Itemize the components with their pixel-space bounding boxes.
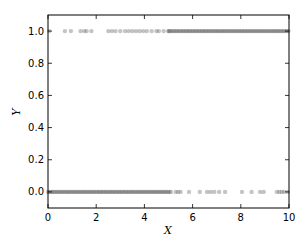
- data-point: [84, 29, 88, 33]
- data-point: [169, 190, 173, 194]
- y-tick-label: 0.0: [28, 186, 44, 197]
- data-point: [212, 190, 216, 194]
- y-tick-label: 0.8: [28, 58, 44, 69]
- data-point: [249, 190, 253, 194]
- data-point: [217, 190, 221, 194]
- data-point: [162, 29, 166, 33]
- data-point: [149, 29, 153, 33]
- y-tick-label: 0.6: [28, 90, 44, 101]
- data-point: [187, 190, 191, 194]
- x-axis-label: X: [163, 224, 173, 237]
- data-point: [198, 190, 202, 194]
- y-tick-label: 1.0: [28, 26, 44, 37]
- data-point: [157, 29, 161, 33]
- data-point: [89, 29, 93, 33]
- x-tick-label: 4: [141, 212, 147, 223]
- data-point: [118, 29, 122, 33]
- x-tick-label: 6: [189, 212, 195, 223]
- plot-frame: [48, 15, 289, 208]
- data-point: [178, 190, 182, 194]
- data-point: [63, 29, 67, 33]
- data-point: [145, 29, 149, 33]
- x-tick-label: 2: [93, 212, 99, 223]
- data-point: [240, 190, 244, 194]
- x-tick-label: 0: [45, 212, 51, 223]
- y-axis-label: Y: [10, 107, 23, 116]
- scatter-chart: 0246810 0.00.20.40.60.81.0 X Y: [0, 0, 306, 242]
- x-tick-label: 10: [283, 212, 296, 223]
- data-points: [46, 29, 291, 194]
- data-point: [223, 190, 227, 194]
- data-point: [262, 190, 266, 194]
- data-point: [69, 29, 73, 33]
- y-axis-ticks: 0.00.20.40.60.81.0: [28, 26, 289, 198]
- y-tick-label: 0.2: [28, 154, 44, 165]
- y-tick-label: 0.4: [28, 122, 44, 133]
- x-tick-label: 8: [238, 212, 244, 223]
- data-point: [113, 29, 117, 33]
